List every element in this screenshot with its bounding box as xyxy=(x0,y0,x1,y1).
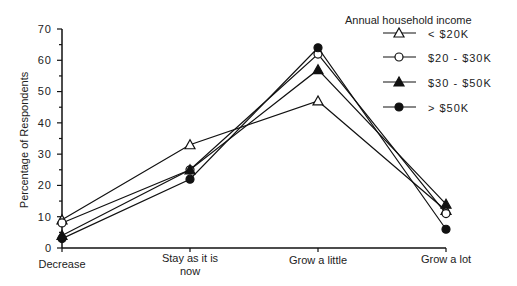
series-1 xyxy=(58,50,450,227)
legend-label-30-50k: $30 - $50K xyxy=(428,77,492,89)
y-axis-title: Percentage of Respondents xyxy=(18,71,30,208)
x-label-decrease: Decrease xyxy=(38,258,85,270)
y-tick-10: 10 xyxy=(38,211,52,223)
data-point xyxy=(313,96,323,105)
series-line xyxy=(62,70,446,236)
y-tick-30: 30 xyxy=(38,148,52,160)
data-point xyxy=(314,44,322,52)
legend-marker-icon xyxy=(395,103,403,111)
data-point xyxy=(58,235,66,243)
x-label-stay: Stay as it is xyxy=(162,252,219,264)
data-point xyxy=(313,65,323,74)
legend-label-20-30k: $20 - $30K xyxy=(428,52,492,64)
line-chart: 0 10 20 30 40 50 60 70 Percentage of Res… xyxy=(0,0,517,286)
legend-marker-icon xyxy=(395,53,403,61)
y-tick-50: 50 xyxy=(38,85,52,97)
y-tick-0: 0 xyxy=(45,242,52,254)
legend: Annual household income < $20K $20 - $30… xyxy=(345,14,492,114)
y-tick-20: 20 xyxy=(38,179,52,191)
series-layer xyxy=(57,44,451,243)
x-label-grow-lot: Grow a lot xyxy=(421,253,471,265)
legend-title: Annual household income xyxy=(345,14,472,26)
data-point xyxy=(186,175,194,183)
series-3 xyxy=(58,44,450,243)
series-line xyxy=(62,54,446,223)
series-line xyxy=(62,101,446,220)
data-point xyxy=(185,140,195,149)
legend-label-lt20k: < $20K xyxy=(428,28,469,40)
legend-label-gt50k: > $50K xyxy=(428,102,469,114)
y-tick-70: 70 xyxy=(38,23,52,35)
data-point xyxy=(442,210,450,218)
data-point xyxy=(442,225,450,233)
y-tick-40: 40 xyxy=(38,117,52,129)
x-label-stay-2: now xyxy=(180,265,200,277)
series-0 xyxy=(57,96,451,224)
x-label-grow-little: Grow a little xyxy=(289,254,347,266)
data-point xyxy=(58,219,66,227)
y-tick-60: 60 xyxy=(38,54,52,66)
